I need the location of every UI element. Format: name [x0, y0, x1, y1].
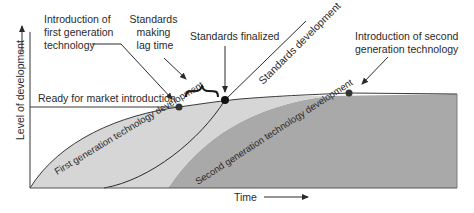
- standards-finalized-dot: [221, 96, 229, 104]
- first-gen-intro-label: Introduction of first generation technol…: [44, 13, 116, 51]
- first-gen-intro-line-2: first generation: [44, 26, 114, 38]
- second-gen-intro-arrow-icon: [362, 57, 388, 84]
- first-gen-intro-dot: [176, 104, 183, 111]
- first-gen-intro-arrow-icon: [92, 44, 172, 99]
- first-gen-intro-line-1: Introduction of: [44, 13, 111, 25]
- standards-lag-line-1: Standards: [130, 13, 178, 25]
- first-gen-intro-line-3: technology: [44, 39, 96, 51]
- standards-development-label: Standards development: [256, 0, 343, 86]
- standards-lag-line-2: making: [137, 26, 171, 38]
- second-gen-intro-line-2: generation technology: [355, 43, 459, 55]
- second-gen-intro-label: Introduction of second generation techno…: [355, 30, 461, 55]
- second-gen-intro-line-1: Introduction of second: [355, 30, 458, 42]
- ready-for-market-label: Ready for market introduction: [38, 92, 176, 104]
- standards-lag-arrow-icon: [164, 58, 186, 79]
- standards-lag-line-3: lag time: [137, 39, 174, 51]
- y-axis-label: Level of development: [14, 40, 26, 140]
- x-axis-label: Time: [234, 191, 257, 203]
- standards-lag-label: Standards making lag time: [130, 13, 181, 51]
- standards-finalized-label: Standards finalized: [190, 30, 279, 42]
- technology-standards-diagram: Level of development Time First generati…: [0, 0, 474, 213]
- second-gen-intro-dot: [346, 90, 353, 97]
